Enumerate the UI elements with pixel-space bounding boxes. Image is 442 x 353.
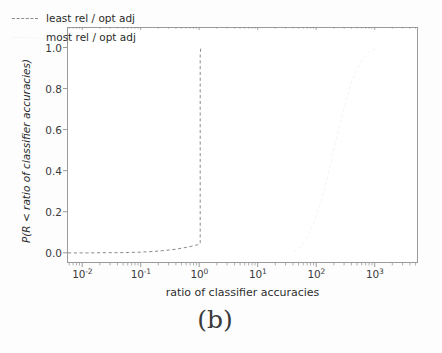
x-tick-label: 10-1 — [131, 268, 151, 280]
x-axis-title: ratio of classifier accuracies — [67, 286, 418, 299]
x-tick-label: 10-2 — [72, 268, 92, 280]
x-tick-label: 102 — [307, 268, 325, 280]
figure-panel-b: least rel / opt adj most rel / opt adj 0… — [0, 0, 442, 353]
series-layer — [68, 49, 378, 253]
plot-area — [67, 27, 418, 263]
x-tick-label: 101 — [249, 268, 267, 280]
series-line-0 — [68, 49, 201, 253]
y-axis-title: P(R < ratio of classifier accuracies) — [20, 33, 32, 269]
x-tick-label: 103 — [366, 268, 384, 280]
x-axis-tick-labels: 10-210-1100101102103 — [0, 268, 442, 284]
plot-canvas — [68, 28, 419, 264]
x-tick-label: 100 — [190, 268, 208, 280]
series-line-1 — [294, 49, 378, 252]
figure-caption: (b) — [0, 305, 430, 334]
